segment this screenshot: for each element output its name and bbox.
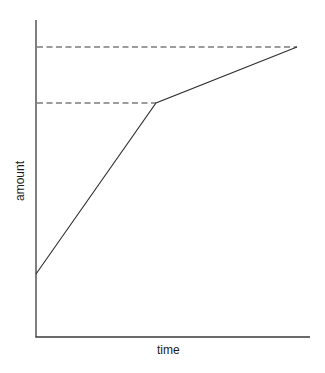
data-series-amount — [36, 47, 297, 274]
y-axis-label: amount — [13, 161, 27, 201]
x-axis-label: time — [157, 343, 180, 357]
chart-canvas — [0, 0, 325, 373]
